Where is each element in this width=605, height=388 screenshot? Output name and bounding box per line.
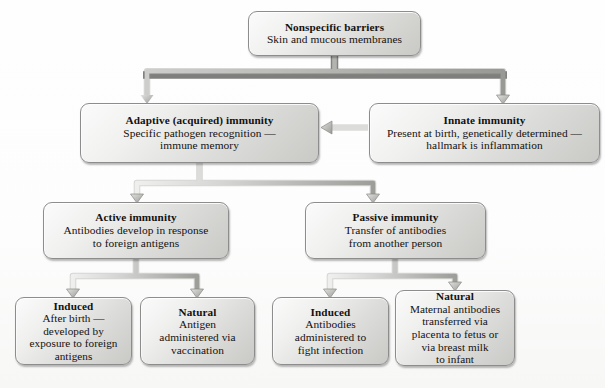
node-natural-passive[interactable]: Natural Maternal antibodies transferred … [395, 290, 515, 366]
edge-adaptive-to-children [131, 163, 380, 203]
node-nonspecific-barriers[interactable]: Nonspecific barriers Skin and mucous mem… [248, 11, 421, 56]
node-title: Induced [54, 300, 94, 313]
node-title: Passive immunity [353, 211, 439, 224]
node-title: Innate immunity [444, 114, 526, 127]
node-title: Natural [179, 306, 217, 319]
edge-nonspecific-to-children [141, 56, 510, 104]
node-body: Antibodies develop in response to foreig… [64, 224, 209, 250]
diagram-canvas: Nonspecific barriers Skin and mucous mem… [0, 0, 605, 388]
node-title: Natural [436, 290, 474, 303]
node-title: Nonspecific barriers [285, 21, 384, 34]
node-body: Specific pathogen recognition — immune m… [123, 127, 275, 153]
node-passive-immunity[interactable]: Passive immunity Transfer of antibodies … [305, 202, 486, 259]
node-natural-active[interactable]: Natural Antigen administered via vaccina… [140, 297, 255, 365]
node-title: Active immunity [95, 211, 176, 224]
node-body: After birth — developed by exposure to f… [30, 312, 118, 362]
node-adaptive-immunity[interactable]: Adaptive (acquired) immunity Specific pa… [80, 103, 319, 163]
edge-innate-to-adaptive [321, 121, 368, 134]
node-induced-passive[interactable]: Induced Antibodies administered to fight… [272, 297, 389, 365]
node-title: Induced [311, 306, 351, 319]
node-active-immunity[interactable]: Active immunity Antibodies develop in re… [43, 202, 229, 259]
node-body: Antibodies administered to fight infecti… [295, 318, 366, 356]
node-induced-active[interactable]: Induced After birth — developed by expos… [15, 297, 132, 365]
node-body: Skin and mucous membranes [267, 33, 402, 46]
node-title: Adaptive (acquired) immunity [125, 114, 273, 127]
node-body: Present at birth, genetically determined… [387, 127, 582, 153]
node-body: Maternal antibodies transferred via plac… [410, 303, 500, 366]
node-innate-immunity[interactable]: Innate immunity Present at birth, geneti… [369, 103, 600, 163]
edge-active-to-children [67, 259, 204, 298]
node-body: Transfer of antibodies from another pers… [345, 224, 446, 250]
node-body: Antigen administered via vaccination [159, 318, 235, 356]
